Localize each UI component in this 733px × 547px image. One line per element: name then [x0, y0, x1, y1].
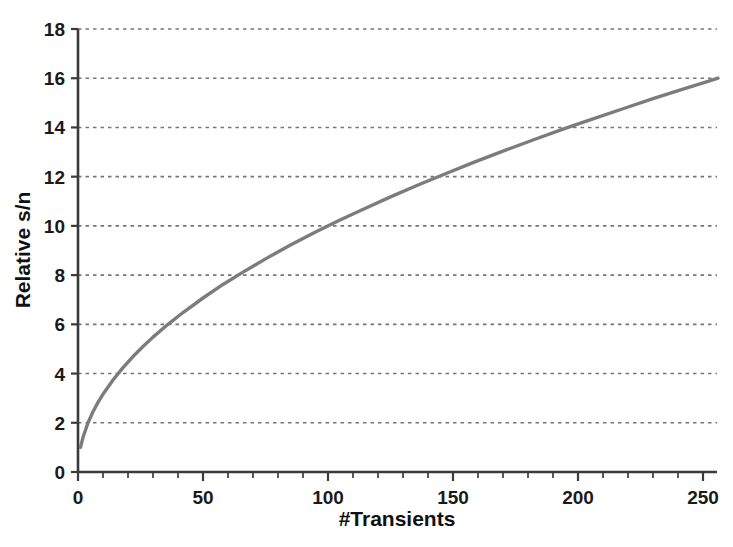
chart-figure: 024681012141618 050100150200250 #Transie…	[0, 0, 733, 547]
y-tick-label-2: 2	[54, 413, 65, 434]
chart-background	[0, 0, 733, 547]
y-axis-title: Relative s/n	[11, 192, 34, 309]
x-tick-label-150: 150	[437, 487, 469, 508]
x-tick-label-250: 250	[687, 487, 719, 508]
y-tick-label-12: 12	[44, 167, 65, 188]
x-axis-title: #Transients	[339, 507, 456, 530]
y-tick-label-4: 4	[54, 364, 65, 385]
y-tick-label-10: 10	[44, 216, 65, 237]
y-tick-label-16: 16	[44, 68, 65, 89]
chart-plot-area: 024681012141618 050100150200250 #Transie…	[0, 0, 733, 547]
x-tick-label-200: 200	[562, 487, 594, 508]
x-tick-label-50: 50	[192, 487, 213, 508]
y-tick-label-8: 8	[54, 265, 65, 286]
y-tick-label-0: 0	[54, 462, 65, 483]
x-tick-label-100: 100	[312, 487, 344, 508]
x-tick-label-0: 0	[73, 487, 84, 508]
y-tick-label-18: 18	[44, 19, 65, 40]
y-tick-label-6: 6	[54, 314, 65, 335]
y-tick-label-14: 14	[44, 117, 66, 138]
